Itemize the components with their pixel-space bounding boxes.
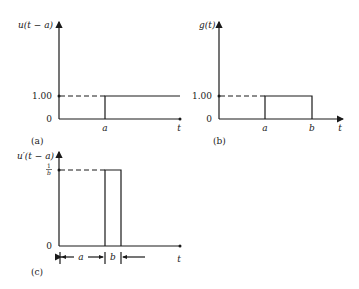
step-function xyxy=(105,96,180,119)
x-axis-label: t xyxy=(177,123,181,133)
x-axis-label: t xyxy=(338,123,342,133)
y-tick-1: 1.00 xyxy=(192,91,212,101)
y-tick-1: 1.00 xyxy=(32,91,52,101)
y-tick-fraction: 1 b xyxy=(46,162,52,176)
panel-c: u′(t − a) 0 1 b a b t (c) xyxy=(17,151,182,277)
x-tick-a: a xyxy=(102,123,107,133)
y-tick-0: 0 xyxy=(46,241,52,251)
figure-canvas: u(t − a) 0 1.00 a t (a) g(t) 0 1.00 a b … xyxy=(0,0,359,289)
x-tick-a: a xyxy=(262,123,267,133)
pulse-function xyxy=(265,96,312,119)
x-axis-label: t xyxy=(177,254,181,264)
panel-caption: (a) xyxy=(31,136,43,146)
axis-end-dot xyxy=(179,118,182,121)
interval-b-label: b xyxy=(110,252,116,262)
y-axis-label: g(t) xyxy=(199,20,216,30)
y-tick-0: 0 xyxy=(206,114,212,124)
axis-end-dot xyxy=(179,245,182,248)
y-tick-0: 0 xyxy=(46,114,52,124)
fraction-numerator: 1 xyxy=(47,162,51,169)
panel-caption: (c) xyxy=(31,267,43,277)
y-axis-label: u(t − a) xyxy=(18,20,54,30)
panel-a: u(t − a) 0 1.00 a t (a) xyxy=(18,20,182,146)
interval-markers xyxy=(60,252,145,264)
panel-b: g(t) 0 1.00 a b t (b) xyxy=(192,20,343,146)
fraction-denominator: b xyxy=(47,169,51,176)
narrow-pulse xyxy=(105,170,121,246)
x-tick-b: b xyxy=(309,123,315,133)
interval-a-label: a xyxy=(78,252,83,262)
y-axis-label: u′(t − a) xyxy=(17,151,55,161)
panel-caption: (b) xyxy=(213,136,226,146)
